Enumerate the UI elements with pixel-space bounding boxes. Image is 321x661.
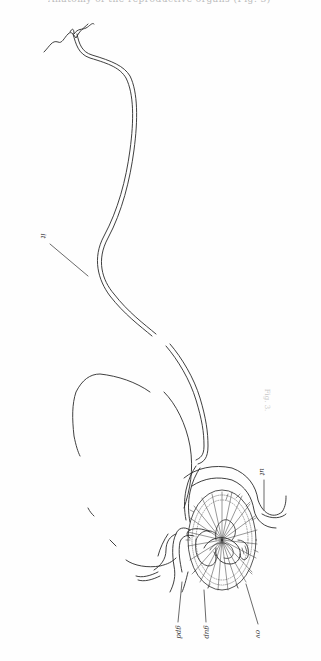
label-it: it: [39, 233, 47, 238]
figure-caption: Fig. 3.: [263, 389, 271, 412]
label-ut: ut: [258, 468, 266, 475]
leader-it: [50, 244, 88, 276]
label-ov: ov: [254, 630, 262, 638]
leader-gup: [204, 590, 206, 622]
leader-ov: [246, 584, 258, 624]
leader-gpd: [178, 582, 182, 622]
label-gpd: gpd: [175, 625, 183, 638]
label-gup: gup: [203, 625, 211, 638]
figure-page: Anatomy of the reproductive organs (Fig.…: [0, 0, 321, 661]
anatomical-illustration: [0, 0, 321, 661]
